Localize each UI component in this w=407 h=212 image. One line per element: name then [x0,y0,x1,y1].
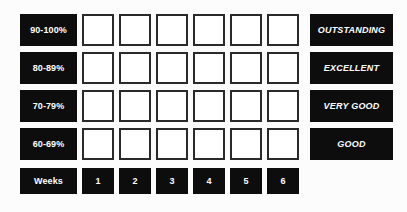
grid-cell[interactable] [230,128,262,160]
grid-cell[interactable] [267,128,299,160]
grid-cell[interactable] [267,52,299,84]
grid-cell[interactable] [82,14,114,46]
grid-cell[interactable] [119,128,151,160]
grid-cell[interactable] [119,90,151,122]
grid-cell[interactable] [156,90,188,122]
grid-cell[interactable] [193,14,225,46]
week-box-3[interactable]: 3 [156,168,188,194]
rating-label-excellent: EXCELLENT [310,52,393,84]
grid-cell[interactable] [267,14,299,46]
row-label-80-89: 80-89% [20,52,77,84]
grid-cell[interactable] [82,90,114,122]
rating-label-very-good: VERY GOOD [310,90,393,122]
grid-cell[interactable] [230,52,262,84]
grid-cell[interactable] [119,14,151,46]
grid-cell[interactable] [193,128,225,160]
grid-cell[interactable] [82,52,114,84]
row-label-70-79: 70-79% [20,90,77,122]
grid-cell[interactable] [119,52,151,84]
grid-cell[interactable] [193,90,225,122]
grid-cell[interactable] [156,52,188,84]
axis-label-weeks: Weeks [20,168,77,194]
grid-cell[interactable] [193,52,225,84]
grid-cell[interactable] [156,128,188,160]
grid-cell[interactable] [267,90,299,122]
week-box-1[interactable]: 1 [82,168,114,194]
progress-chart: 90-100% OUTSTANDING 80-89% EXCELLENT 70-… [0,0,407,212]
week-box-2[interactable]: 2 [119,168,151,194]
week-box-6[interactable]: 6 [267,168,299,194]
grid-cell[interactable] [82,128,114,160]
rating-label-good: GOOD [310,128,393,160]
week-box-5[interactable]: 5 [230,168,262,194]
rating-label-outstanding: OUTSTANDING [310,14,393,46]
grid-cell[interactable] [230,14,262,46]
grid-cell[interactable] [156,14,188,46]
row-label-60-69: 60-69% [20,128,77,160]
week-box-4[interactable]: 4 [193,168,225,194]
grid-cell[interactable] [230,90,262,122]
row-label-90-100: 90-100% [20,14,77,46]
